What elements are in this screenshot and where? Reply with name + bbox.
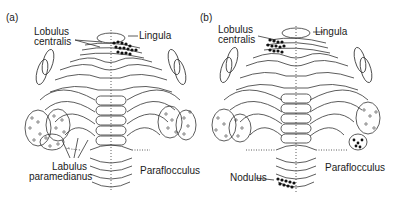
- panel-label-a: (a): [6, 12, 18, 23]
- label-lobulus-centralis-a-2: centralis: [34, 37, 71, 47]
- panel-label-b: (b): [200, 12, 212, 23]
- label-paraflocculus-a: Paraflocculus: [140, 166, 200, 176]
- label-lobulus-paramedianus-a-2: paramedianus: [29, 172, 92, 182]
- label-lobulus-centralis-b-2: centralis: [218, 35, 255, 45]
- panel-b: (b) Lobulus centralis Lingula Parafloccu…: [198, 0, 396, 203]
- label-paraflocculus-b: Paraflocculus: [325, 163, 385, 173]
- label-lingula-b: Lingula: [315, 27, 347, 37]
- label-lingula-a: Lingula: [139, 31, 171, 41]
- panel-a: (a) Lobulus centralis Lingula Labulus pa…: [0, 0, 198, 203]
- label-nodulus-b: Nodulus: [230, 173, 267, 183]
